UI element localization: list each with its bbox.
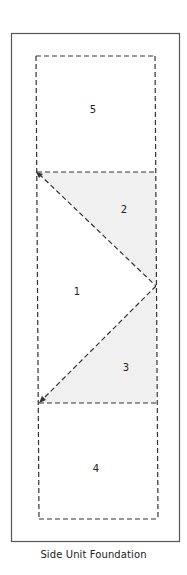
- diagram-caption: Side Unit Foundation: [0, 549, 187, 560]
- piece-label-4: 4: [93, 463, 99, 474]
- foundation-diagram: 5 2 1 3 4: [0, 0, 187, 575]
- piece-label-3: 3: [123, 362, 129, 373]
- piece-label-5: 5: [90, 104, 96, 115]
- piece-label-2: 2: [121, 204, 127, 215]
- piece-label-1: 1: [74, 286, 80, 297]
